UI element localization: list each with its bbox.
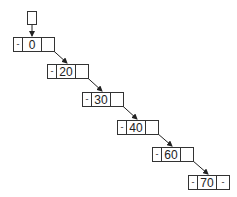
next-pointer-cell (111, 93, 123, 106)
list-node-70: - 70 - (188, 175, 230, 190)
node-value: 40 (127, 121, 146, 134)
prev-pointer-cell: - (189, 176, 198, 189)
next-pointer-null: - (217, 176, 229, 189)
linked-list-diagram: - 0 - 20 - 30 - 40 - 60 - 70 - (0, 0, 237, 197)
list-node-0: - 0 (13, 37, 55, 52)
list-node-40: - 40 (117, 120, 159, 135)
list-node-60: - 60 (152, 147, 194, 162)
node-value: 30 (92, 93, 111, 106)
next-pointer-cell (76, 65, 88, 78)
prev-pointer-cell: - (14, 38, 23, 51)
prev-pointer-cell: - (118, 121, 127, 134)
head-pointer-box (27, 11, 37, 25)
list-node-20: - 20 (47, 64, 89, 79)
node-value: 60 (162, 148, 181, 161)
next-pointer-cell (181, 148, 193, 161)
prev-pointer-cell: - (83, 93, 92, 106)
node-value: 20 (57, 65, 76, 78)
list-node-30: - 30 (82, 92, 124, 107)
next-pointer-cell (42, 38, 54, 51)
prev-pointer-cell: - (48, 65, 57, 78)
prev-pointer-cell: - (153, 148, 162, 161)
next-pointer-cell (146, 121, 158, 134)
node-value: 0 (23, 38, 42, 51)
node-value: 70 (198, 176, 217, 189)
